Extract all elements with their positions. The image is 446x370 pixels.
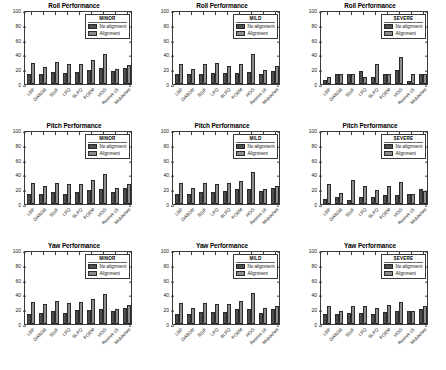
y-axis: 020406080100	[0, 251, 24, 325]
x-tick-mark	[375, 252, 376, 255]
y-tick-label: 80	[15, 143, 21, 148]
legend[interactable]: MINORNo alignmentAlignment	[85, 14, 129, 40]
y-tick-label: 0	[314, 203, 317, 208]
x-tick-mark	[251, 202, 252, 205]
legend-item-no-alignment[interactable]: No alignment	[236, 144, 274, 150]
panel-title: Roll Performance	[0, 2, 148, 10]
x-tick-label-blpq: BLPQ	[367, 327, 379, 339]
legend-label: Alignment	[247, 151, 267, 156]
y-tick-label: 60	[311, 158, 317, 163]
x-tick-mark	[79, 132, 80, 135]
y-tick-label: 100	[161, 9, 169, 14]
panel-title: Yaw Performance	[0, 242, 148, 250]
x-tick-label-lpq: LPQ	[61, 327, 71, 337]
x-tick-mark	[127, 322, 128, 325]
y-axis: 020406080100	[0, 131, 24, 205]
y-tick-label: 40	[311, 173, 317, 178]
y-tick-label: 40	[15, 293, 21, 298]
legend-item-no-alignment[interactable]: No alignment	[88, 144, 126, 150]
legend-item-alignment[interactable]: Alignment	[88, 270, 126, 276]
x-tick-mark	[43, 252, 44, 255]
legend-item-no-alignment[interactable]: No alignment	[88, 24, 126, 30]
legend-label: Alignment	[247, 271, 267, 276]
y-tick-label: 80	[15, 263, 21, 268]
x-tick-mark	[67, 322, 68, 325]
plot-area: MINORNo alignmentAlignment	[24, 131, 132, 205]
y-tick-label: 20	[163, 68, 169, 73]
x-tick-mark	[115, 322, 116, 325]
legend[interactable]: SEVERENo alignmentAlignment	[381, 14, 425, 40]
legend-item-no-alignment[interactable]: No alignment	[88, 264, 126, 270]
x-tick-label-bsif: BSIF	[197, 327, 208, 338]
legend[interactable]: SEVERENo alignmentAlignment	[381, 134, 425, 160]
x-tick-label-lpq: LPQ	[209, 87, 219, 97]
legend-item-no-alignment[interactable]: No alignment	[384, 264, 422, 270]
x-axis-labels: LBPGABORBSIFLPQBLPQPOEMHOGResnet-18Mobil…	[172, 205, 280, 243]
x-tick-mark	[55, 202, 56, 205]
panel-title: Roll Performance	[296, 2, 444, 10]
x-tick-label-blpq: BLPQ	[219, 207, 231, 219]
legend-label: No alignment	[395, 144, 422, 149]
legend-item-alignment[interactable]: Alignment	[236, 270, 274, 276]
legend[interactable]: SEVERENo alignmentAlignment	[381, 254, 425, 280]
legend-item-alignment[interactable]: Alignment	[236, 150, 274, 156]
legend-item-no-alignment[interactable]: No alignment	[236, 264, 274, 270]
y-tick-label: 20	[163, 308, 169, 313]
y-tick-label: 80	[163, 143, 169, 148]
legend-item-alignment[interactable]: Alignment	[236, 30, 274, 36]
y-tick-label: 40	[311, 53, 317, 58]
legend-swatch-icon	[88, 24, 97, 29]
x-tick-mark	[115, 82, 116, 85]
y-tick-label: 80	[15, 23, 21, 28]
legend-swatch-icon	[384, 144, 393, 149]
y-axis: 020406080100	[296, 251, 320, 325]
legend-swatch-icon	[236, 24, 245, 29]
bar-poem-alignment	[91, 299, 95, 324]
legend-item-alignment[interactable]: Alignment	[88, 150, 126, 156]
x-tick-mark	[67, 202, 68, 205]
legend-label: No alignment	[99, 264, 126, 269]
legend-item-no-alignment[interactable]: No alignment	[384, 144, 422, 150]
legend-item-no-alignment[interactable]: No alignment	[236, 24, 274, 30]
x-tick-label-poem: POEM	[378, 327, 391, 340]
legend[interactable]: MILDNo alignmentAlignment	[233, 254, 277, 280]
bar-poem-alignment	[91, 180, 95, 204]
x-axis-labels: LBPGABORBSIFLPQBLPQPOEMHOGResnet-18Mobil…	[320, 85, 428, 123]
x-tick-mark	[227, 12, 228, 15]
x-tick-label-blpq: BLPQ	[219, 87, 231, 99]
y-tick-label: 40	[311, 293, 317, 298]
legend-item-alignment[interactable]: Alignment	[384, 270, 422, 276]
chart-panel-roll-mild: Roll Performance020406080100MILDNo align…	[148, 0, 296, 123]
x-tick-mark	[79, 82, 80, 85]
legend[interactable]: MINORNo alignmentAlignment	[85, 254, 129, 280]
legend-item-no-alignment[interactable]: No alignment	[384, 24, 422, 30]
bar-hog-alignment	[251, 54, 255, 84]
y-tick-label: 100	[13, 249, 21, 254]
legend[interactable]: MINORNo alignmentAlignment	[85, 134, 129, 160]
x-tick-label-blpq: BLPQ	[71, 87, 83, 99]
chart-panel-pitch-mild: Pitch Performance020406080100MILDNo alig…	[148, 120, 296, 243]
x-tick-label-poem: POEM	[82, 87, 95, 100]
x-tick-mark	[203, 132, 204, 135]
legend-item-alignment[interactable]: Alignment	[384, 30, 422, 36]
legend-item-alignment[interactable]: Alignment	[88, 30, 126, 36]
x-tick-mark	[275, 322, 276, 325]
legend[interactable]: MILDNo alignmentAlignment	[233, 14, 277, 40]
x-tick-mark	[91, 322, 92, 325]
x-tick-label-bsif: BSIF	[197, 87, 208, 98]
bar-hog-alignment	[103, 174, 107, 204]
x-tick-label-poem: POEM	[230, 327, 243, 340]
y-tick-label: 100	[13, 129, 21, 134]
legend-swatch-icon	[384, 151, 393, 156]
x-tick-mark	[79, 322, 80, 325]
legend[interactable]: MILDNo alignmentAlignment	[233, 134, 277, 160]
legend-item-alignment[interactable]: Alignment	[384, 150, 422, 156]
plot-area: SEVERENo alignmentAlignment	[320, 131, 428, 205]
x-tick-mark	[423, 82, 424, 85]
y-tick-label: 100	[309, 129, 317, 134]
x-tick-mark	[227, 202, 228, 205]
x-tick-mark	[55, 132, 56, 135]
x-tick-mark	[339, 322, 340, 325]
x-tick-mark	[79, 202, 80, 205]
x-tick-mark	[227, 132, 228, 135]
